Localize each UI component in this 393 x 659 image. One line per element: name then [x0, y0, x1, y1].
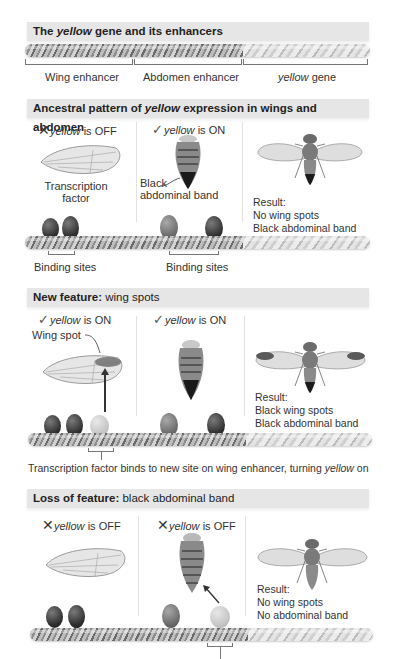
status-text: is OFF	[200, 520, 236, 532]
binding-sites-label: Binding sites	[166, 261, 228, 273]
gene-label: yellow gene	[278, 71, 336, 83]
binding-sites-label: Binding sites	[34, 261, 96, 273]
result-text: Result: No wing spots Black abdominal ba…	[253, 196, 356, 235]
abdomen-status: ✓yellow is ON	[153, 312, 226, 327]
label-line: Black	[140, 177, 218, 189]
result-line: No abdominal band	[257, 609, 348, 622]
binding-site-bracket	[48, 251, 75, 255]
header-text: The	[33, 25, 57, 37]
label-line: abdominal band	[140, 189, 218, 201]
transcription-factor-label: Transcription factor	[36, 180, 116, 204]
wing-status: ✓yellow is ON	[38, 312, 111, 327]
result-line: Result:	[253, 196, 356, 209]
wing-status: ✕yellow is OFF	[42, 517, 121, 533]
panel3-header: New feature: wing spots	[27, 288, 369, 307]
dna-shine	[28, 435, 372, 438]
tick	[101, 452, 102, 460]
transcription-factor	[68, 605, 85, 628]
divider	[136, 316, 137, 416]
transcription-factor	[162, 604, 180, 628]
wing-status: ✕yellow is OFF	[38, 122, 117, 138]
abdomen-illustration	[176, 340, 206, 402]
gene-bracket	[243, 59, 368, 65]
arrow	[201, 583, 221, 605]
result-text: Result: No wing spots No abdominal band	[257, 583, 348, 622]
divider	[136, 122, 137, 222]
fly-illustration	[255, 130, 365, 186]
fly-illustration	[253, 338, 368, 394]
panel2-header: Ancestral pattern of yellow expression i…	[27, 99, 369, 118]
abdomen-enhancer-bracket	[134, 59, 242, 65]
divider	[138, 516, 139, 616]
caption: Transcription factor binds to new site o…	[28, 462, 369, 474]
wing-illustration	[43, 543, 128, 583]
panel4-header: Loss of feature: black abdominal band	[27, 489, 369, 508]
result-text: Result: Black wing spots Black abdominal…	[255, 391, 358, 430]
wing-spot-label: Wing spot	[32, 329, 81, 341]
header-text: wing spots	[102, 291, 160, 303]
status-italic: yellow	[165, 314, 196, 326]
arrow-head-icon	[100, 368, 110, 376]
black-band-label: Black abdominal band	[140, 177, 218, 201]
gene-text: gene	[309, 71, 337, 83]
header-italic: yellow	[145, 102, 180, 114]
divider	[244, 316, 245, 416]
header-italic: yellow	[57, 25, 92, 37]
header-bold: Loss of feature:	[33, 492, 119, 504]
wing-illustration	[38, 140, 123, 180]
x-mark-icon: ✕	[38, 122, 50, 138]
x-mark-icon: ✕	[42, 517, 54, 533]
status-italic: yellow	[169, 520, 200, 532]
status-text: is OFF	[81, 125, 117, 137]
divider	[242, 122, 243, 222]
status-text: is ON	[81, 314, 112, 326]
tick	[220, 647, 221, 659]
dna-strand	[25, 236, 370, 249]
panel1-header: The yellow gene and its enhancers	[27, 22, 369, 41]
arrow	[104, 372, 106, 412]
wing-enhancer-bracket	[25, 59, 133, 65]
abdomen-enhancer-label: Abdomen enhancer	[143, 71, 239, 83]
check-icon: ✓	[153, 312, 165, 327]
header-text: black abdominal band	[119, 492, 234, 504]
caption-text: Transcription factor binds to new site o…	[28, 462, 325, 474]
header-text: gene and its enhancers	[92, 25, 223, 37]
result-line: Black abdominal band	[253, 222, 356, 235]
x-mark-icon: ✕	[157, 517, 169, 533]
gene-italic: yellow	[278, 71, 309, 83]
caption-text: on	[354, 462, 369, 474]
wing-enhancer-label: Wing enhancer	[45, 71, 119, 83]
result-line: Result:	[257, 583, 348, 596]
result-line: Result:	[255, 391, 358, 404]
divider	[245, 516, 246, 616]
header-text: Ancestral pattern of	[33, 102, 145, 114]
result-line: No wing spots	[257, 596, 348, 609]
result-line: No wing spots	[253, 209, 356, 222]
wing-illustration	[40, 350, 125, 390]
status-text: is ON	[196, 314, 227, 326]
label-line: factor	[36, 192, 116, 204]
header-bold: New feature:	[33, 291, 102, 303]
result-line: Black wing spots	[255, 404, 358, 417]
dna-strand	[30, 628, 373, 641]
dna-shine	[25, 46, 370, 49]
status-italic: yellow	[54, 520, 85, 532]
check-icon: ✓	[152, 122, 164, 137]
dna-shine	[25, 238, 370, 241]
dna-strand	[28, 433, 372, 446]
dna-shine	[30, 630, 373, 633]
status-text: is OFF	[85, 520, 121, 532]
status-italic: yellow	[50, 314, 81, 326]
check-icon: ✓	[38, 312, 50, 327]
status-italic: yellow	[50, 125, 81, 137]
abdomen-status: ✕yellow is OFF	[157, 517, 236, 533]
transcription-factor	[46, 606, 63, 628]
label-line: Transcription	[36, 180, 116, 192]
binding-site-bracket	[169, 251, 219, 255]
unbound-transcription-factor	[210, 606, 230, 628]
dna-strand	[25, 44, 370, 57]
caption-italic: yellow	[325, 462, 354, 474]
result-line: Black abdominal band	[255, 417, 358, 430]
